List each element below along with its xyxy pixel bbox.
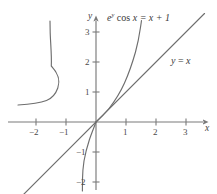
plot-canvas	[0, 0, 217, 194]
y-tick-label--2: −2	[76, 178, 86, 187]
x-tick-label-3: 3	[183, 128, 188, 137]
x-tick-label-1: 1	[123, 128, 128, 137]
x-tick-label--2: −2	[29, 128, 39, 137]
y-tick-label-1: 1	[85, 88, 90, 97]
x-tick-label--1: −1	[59, 128, 69, 137]
y-axis-label: y	[88, 12, 92, 22]
y-tick-label--1: −1	[76, 148, 86, 157]
line-annotation: y = x	[171, 56, 191, 66]
implicit-curve-cos: cos	[117, 12, 130, 23]
x-tick-label-2: 2	[153, 128, 158, 137]
curve-left-branch	[18, 21, 59, 105]
implicit-curve-annotation: ey cos x = x + 1	[107, 13, 170, 23]
implicit-curve-figure: −2 −1 1 2 3 1 2 3 −1 −2 x y ey cos x = x…	[0, 0, 217, 194]
curve-main-branch	[96, 21, 142, 123]
line-rhs: x	[186, 55, 190, 66]
y-tick-label-3: 3	[85, 28, 90, 37]
x-axis-label: x	[205, 124, 209, 134]
y-tick-label-2: 2	[85, 58, 90, 67]
implicit-curve-rest: x = x + 1	[133, 12, 170, 23]
